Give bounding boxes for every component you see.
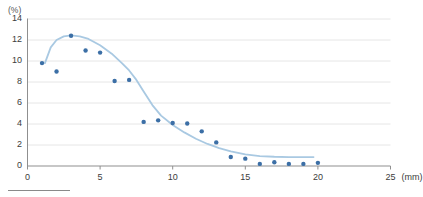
x-axis-tick-label: 25 (381, 172, 401, 182)
data-point (141, 120, 145, 124)
data-point (214, 140, 218, 144)
data-point (40, 61, 44, 65)
data-point (127, 78, 131, 82)
y-axis-tick-label: 6 (4, 97, 22, 107)
data-point (98, 50, 102, 54)
data-point (69, 34, 73, 38)
data-point (185, 121, 189, 125)
data-point (171, 121, 175, 125)
data-point (200, 129, 204, 133)
data-point (272, 160, 276, 164)
footer-rule (8, 190, 70, 191)
trend-line-path (45, 35, 314, 157)
trend-line (45, 35, 314, 157)
x-axis-tick-label: 5 (90, 172, 110, 182)
data-point (83, 48, 87, 52)
data-point (258, 162, 262, 166)
data-point (229, 155, 233, 159)
data-points (40, 34, 320, 167)
y-axis-tick-label: 10 (4, 55, 22, 65)
y-axis-tick-label: 8 (4, 76, 22, 86)
x-axis-tick-label: 10 (163, 172, 183, 182)
y-axis-tick-label: 2 (4, 139, 22, 149)
data-point (301, 162, 305, 166)
x-axis-tick-label: 0 (18, 172, 38, 182)
data-point (243, 156, 247, 160)
x-axis-tick-label: 20 (308, 172, 328, 182)
data-point (316, 161, 320, 165)
y-axis-tick-label: 12 (4, 34, 22, 44)
data-point (54, 69, 58, 73)
y-axis-tick-label: 14 (4, 13, 22, 23)
y-axis-tick-label: 0 (4, 160, 22, 170)
data-point (156, 118, 160, 122)
x-axis-tick-label: 15 (235, 172, 255, 182)
data-point (112, 79, 116, 83)
x-axis-unit-label: (mm) (402, 172, 423, 182)
data-point (287, 162, 291, 166)
y-axis-tick-label: 4 (4, 118, 22, 128)
x-axis-ticks (28, 166, 391, 170)
